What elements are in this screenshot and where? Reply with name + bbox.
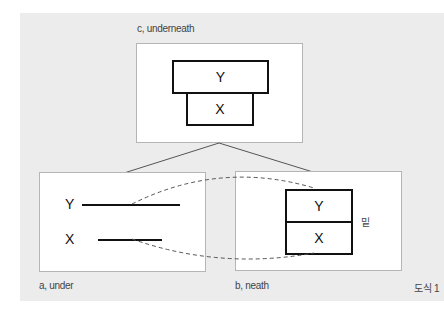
dashed-arcs (0, 0, 444, 318)
figure-caption: 도식 1 (414, 280, 439, 295)
